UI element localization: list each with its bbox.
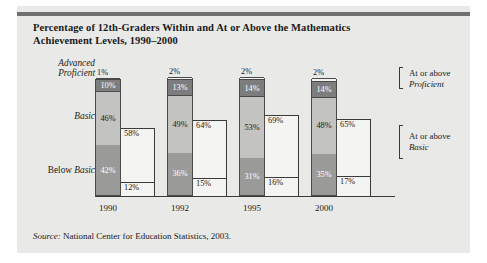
- left-label-advanced-proficient: Advanced Proficient: [58, 58, 95, 78]
- stacked-bar: 42%46%10%: [95, 79, 121, 196]
- right-label-proficient-line1: At or above: [409, 68, 451, 79]
- right-label-basic-line2: Basic: [409, 142, 451, 153]
- title-line-1: Percentage of 12th-Graders Within and At…: [33, 22, 393, 35]
- advanced-value-label: 2%: [313, 68, 324, 77]
- x-axis-label: 1995: [239, 203, 265, 213]
- left-label-below: Below: [48, 165, 75, 175]
- left-label-proficient: Proficient: [58, 68, 95, 78]
- top-rule-divider: [17, 12, 470, 16]
- chart-plot-area: Advanced Proficient Basic Below Basic At…: [17, 55, 470, 215]
- stacked-bar: 35%48%14%: [311, 79, 337, 196]
- segment-proficient: 13%: [168, 79, 192, 94]
- cumulative-label-basic: 64%: [196, 121, 211, 130]
- source-value: National Center for Education Statistics…: [61, 231, 231, 241]
- source-note: Source: National Center for Education St…: [33, 231, 231, 241]
- stacked-bar: 36%49%13%: [167, 78, 193, 196]
- x-axis-label: 2000: [311, 203, 337, 213]
- segment-below-basic: 36%: [168, 153, 192, 195]
- x-axis-label: 1992: [167, 203, 193, 213]
- right-label-at-or-above-proficient: At or above Proficient: [409, 68, 451, 89]
- segment-below-basic: 35%: [312, 154, 336, 195]
- segment-basic: 53%: [240, 96, 264, 159]
- advanced-value-label: 2%: [169, 67, 180, 76]
- chart-card: Percentage of 12th-Graders Within and At…: [17, 6, 470, 253]
- cumulative-label-basic: 58%: [124, 129, 139, 138]
- segment-advanced: [312, 78, 336, 80]
- cumulative-label-basic: 69%: [268, 116, 283, 125]
- left-label-basic: Basic: [74, 111, 95, 121]
- segment-basic: 48%: [312, 97, 336, 154]
- segment-below-basic: 42%: [96, 145, 120, 195]
- right-label-basic-line1: At or above: [409, 131, 451, 142]
- cumulative-label-proficient: 12%: [124, 183, 139, 192]
- advanced-value-label: 1%: [97, 68, 108, 77]
- left-label-below-basic: Below Basic: [48, 165, 95, 175]
- title-line-2: Achievement Levels, 1990–2000: [33, 35, 393, 48]
- segment-basic: 46%: [96, 91, 120, 145]
- x-axis-label: 1990: [95, 203, 121, 213]
- segment-below-basic: 31%: [240, 158, 264, 195]
- cumulative-label-basic: 65%: [340, 120, 355, 129]
- segment-basic: 49%: [168, 95, 192, 153]
- x-axis-line: [95, 196, 395, 197]
- page-title: Percentage of 12th-Graders Within and At…: [33, 22, 393, 47]
- segment-advanced: [96, 78, 120, 79]
- segment-proficient: 10%: [96, 79, 120, 91]
- cumulative-label-proficient: 15%: [196, 179, 211, 188]
- segment-proficient: 14%: [240, 79, 264, 96]
- cumulative-label-proficient: 16%: [268, 178, 283, 187]
- right-label-proficient-line2: Proficient: [409, 79, 451, 90]
- stacked-bar: 31%53%14%: [239, 78, 265, 196]
- source-label: Source:: [33, 231, 61, 241]
- left-label-below-basic-italic: Basic: [74, 165, 95, 175]
- cumulative-label-proficient: 17%: [340, 177, 355, 186]
- segment-advanced: [240, 77, 264, 79]
- segment-proficient: 14%: [312, 81, 336, 98]
- right-label-at-or-above-basic: At or above Basic: [409, 131, 451, 152]
- bracket-proficient: [399, 67, 403, 89]
- left-label-advanced: Advanced: [58, 58, 95, 68]
- advanced-value-label: 2%: [241, 67, 252, 76]
- bracket-basic: [399, 125, 403, 159]
- segment-advanced: [168, 77, 192, 79]
